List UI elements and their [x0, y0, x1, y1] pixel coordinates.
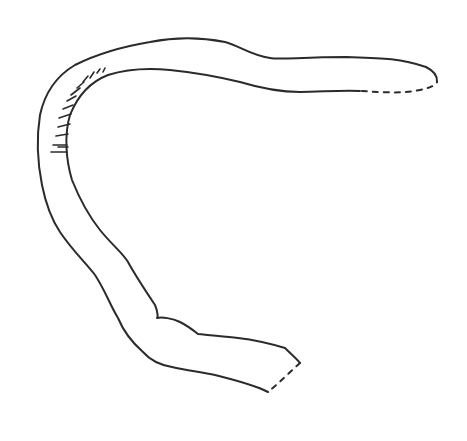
broken-end-bottom [268, 363, 300, 392]
specimen-drawing [0, 0, 467, 441]
figure-canvas [0, 0, 467, 441]
inner-contour [66, 69, 360, 363]
broken-end-right [362, 82, 437, 92]
